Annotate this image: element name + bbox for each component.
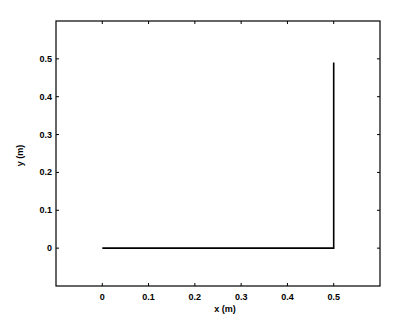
x-tick-label: 0.4 [281,292,294,302]
y-tick-label: 0.4 [39,92,52,102]
axes-frame [56,21,380,286]
x-tick-label: 0.1 [142,292,155,302]
y-tick-label: 0 [47,243,52,253]
axes-box [56,21,380,286]
y-tick-label: 0.3 [39,130,52,140]
x-tick-label: 0.3 [235,292,248,302]
y-tick-label: 0.1 [39,205,52,215]
data-series [102,63,333,249]
y-tick-label: 0.2 [39,167,52,177]
chart: 00.10.20.30.40.5 00.10.20.30.40.5 x (m) … [0,0,401,325]
x-axis-ticks: 00.10.20.30.40.5 [100,21,340,302]
data-line-path [102,63,333,249]
y-axis-ticks: 00.10.20.30.40.5 [39,54,380,253]
y-axis-label: y (m) [15,145,25,167]
x-tick-label: 0.2 [189,292,202,302]
x-tick-label: 0.5 [327,292,340,302]
x-tick-label: 0 [100,292,105,302]
x-axis-label: x (m) [214,304,236,314]
y-tick-label: 0.5 [39,54,52,64]
